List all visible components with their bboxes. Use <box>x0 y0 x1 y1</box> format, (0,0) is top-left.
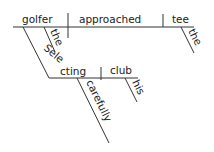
subject-word: golfer <box>22 13 53 25</box>
participle-word-part1: Sele <box>42 41 67 65</box>
sentence-diagram: golfer approached tee the the Sele cting… <box>0 0 214 152</box>
participle-word-part2: cting <box>60 65 86 77</box>
verb-word: approached <box>79 13 141 25</box>
object-modifier-word: the <box>186 26 205 47</box>
participle-object-word: club <box>110 64 132 76</box>
object-word: tee <box>172 13 189 25</box>
adverb-word: carefully <box>84 78 115 124</box>
